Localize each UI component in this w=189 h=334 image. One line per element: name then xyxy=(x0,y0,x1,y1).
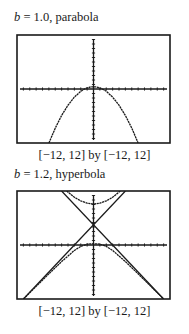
axes xyxy=(20,39,167,140)
chart-2 xyxy=(17,191,170,299)
plots-canvas xyxy=(0,0,189,334)
chart-1 xyxy=(17,35,170,143)
